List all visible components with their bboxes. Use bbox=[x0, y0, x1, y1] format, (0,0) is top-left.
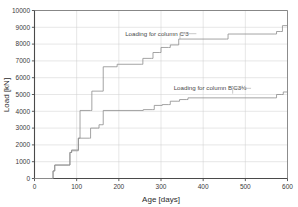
annotation-column-bc3: Loading for column B'C3½ bbox=[174, 84, 247, 91]
x-tick-label: 600 bbox=[282, 183, 293, 190]
load-vs-age-chart: 0100020003000400050006000700080009000100… bbox=[0, 0, 298, 207]
x-tick-label: 200 bbox=[113, 183, 124, 190]
y-tick-label: 1000 bbox=[16, 158, 31, 165]
y-tick-label: 4000 bbox=[16, 108, 31, 115]
x-tick-label: 400 bbox=[198, 183, 209, 190]
y-tick-label: 8000 bbox=[16, 40, 31, 47]
y-tick-label: 10000 bbox=[12, 7, 30, 14]
y-tick-label: 2000 bbox=[16, 141, 31, 148]
x-axis-title: Age [days] bbox=[142, 195, 180, 204]
x-tick-label: 100 bbox=[71, 183, 82, 190]
annotation-column-c3: Loading for column C'3 bbox=[125, 30, 189, 37]
y-tick-label: 3000 bbox=[16, 124, 31, 131]
y-tick-label: 0 bbox=[26, 175, 30, 182]
x-tick-label: 500 bbox=[240, 183, 251, 190]
chart-container: 0100020003000400050006000700080009000100… bbox=[0, 0, 298, 207]
y-tick-label: 9000 bbox=[16, 24, 31, 31]
y-tick-label: 6000 bbox=[16, 74, 31, 81]
y-axis-title: Load [kN] bbox=[2, 78, 11, 112]
x-tick-label: 300 bbox=[156, 183, 167, 190]
y-tick-label: 5000 bbox=[16, 91, 31, 98]
x-tick-label: 0 bbox=[33, 183, 37, 190]
y-tick-label: 7000 bbox=[16, 57, 31, 64]
